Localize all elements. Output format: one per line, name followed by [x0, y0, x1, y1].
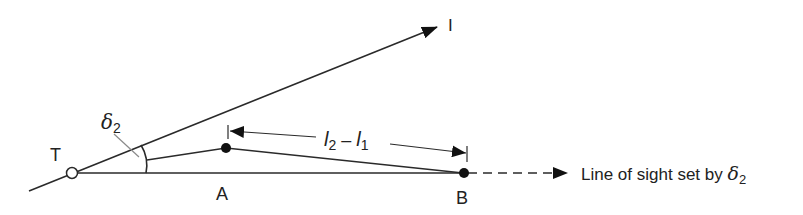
point-A: [221, 143, 231, 153]
dimension-line-left: [230, 131, 316, 137]
line-of-sight-arrowhead: [553, 167, 568, 179]
label-delta2: δ2: [101, 110, 121, 136]
delta-leader-line: [114, 134, 139, 157]
traverse-line-arc-A-B: [147, 148, 463, 173]
label-A: A: [216, 184, 228, 204]
label-T: T: [50, 145, 61, 165]
angle-arc-delta2: [141, 145, 147, 173]
traverse-angle-diagram: T A B I δ2 l2 – l1 Line of sight set by …: [0, 0, 803, 215]
label-I: I: [448, 16, 453, 35]
point-B: [459, 168, 469, 178]
dimension-line-right: [390, 144, 466, 153]
label-B: B: [456, 188, 468, 208]
ray-to-I: [29, 27, 437, 191]
label-dimension-l2-minus-l1: l2 – l1: [324, 128, 369, 153]
point-T-instrument: [67, 168, 78, 179]
label-line-of-sight: Line of sight set by δ2: [581, 162, 746, 187]
